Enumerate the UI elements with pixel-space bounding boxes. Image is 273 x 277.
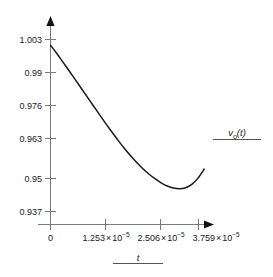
x-tick-label: 2.506×10−5 — [137, 234, 184, 243]
x-axis-title: t — [113, 252, 163, 264]
chart-screenshot: 1.003 0.99 0.976 0.963 0.95 0.937 0 1.25… — [0, 0, 273, 277]
y-tick-label: 0.99 — [0, 68, 42, 77]
legend-rule — [213, 139, 261, 140]
y-tick-label: 0.976 — [0, 101, 42, 110]
x-tick-label: 3.759×10−5 — [192, 234, 239, 243]
x-axis-arrowhead — [204, 220, 214, 228]
legend-label-text: vo(t) — [213, 127, 261, 139]
y-tick-label: 0.95 — [0, 174, 42, 183]
x-axis-title-rule — [113, 263, 163, 264]
legend-entry-vo: vo(t) — [213, 127, 261, 140]
x-tick-label: 0 — [48, 234, 53, 243]
y-tick-label: 0.937 — [0, 207, 42, 216]
x-tick-label: 1.253×10−5 — [82, 234, 129, 243]
x-axis-title-text: t — [137, 252, 140, 263]
y-tick-label: 1.003 — [0, 35, 42, 44]
data-curve-vo — [51, 45, 205, 189]
y-tick-label: 0.963 — [0, 134, 42, 143]
y-axis-arrowhead — [46, 16, 54, 26]
